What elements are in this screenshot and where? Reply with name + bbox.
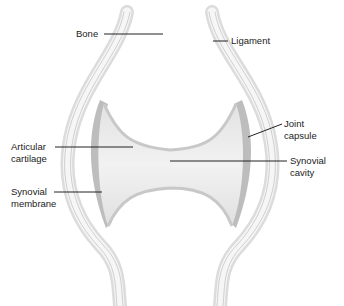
label-synovial-membrane-line2: membrane <box>11 198 56 209</box>
synovial-joint-diagram <box>0 0 344 306</box>
label-articular-cartilage-line2: cartilage <box>11 153 47 164</box>
label-articular-cartilage-line1: Articular <box>11 141 46 152</box>
label-synovial-cavity-line1: Synovial <box>290 155 326 166</box>
label-synovial-membrane-line1: Synovial <box>11 186 47 197</box>
label-bone: Bone <box>76 28 98 39</box>
label-joint-capsule-line2: capsule <box>284 130 317 141</box>
label-ligament: Ligament <box>231 35 270 46</box>
label-joint-capsule-line1: Joint <box>284 118 304 129</box>
label-synovial-cavity-line2: cavity <box>290 167 314 178</box>
